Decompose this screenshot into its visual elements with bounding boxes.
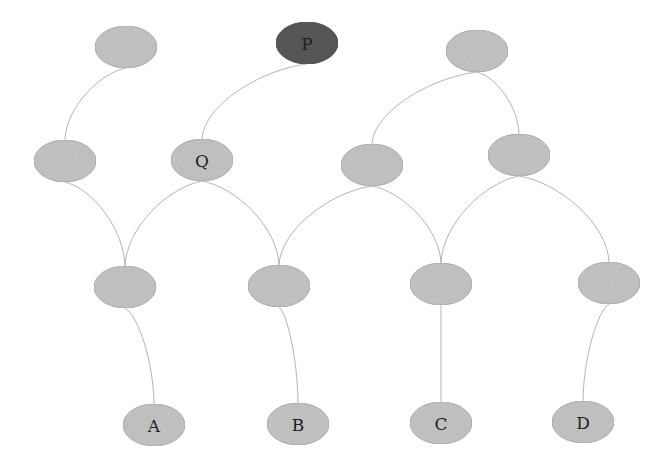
node-label: C xyxy=(434,414,447,434)
node-label: A xyxy=(147,416,161,436)
edge-n7-n11 xyxy=(519,176,609,262)
node-ellipse xyxy=(94,266,156,308)
edge-n3-n6 xyxy=(372,72,477,144)
node-ellipse xyxy=(95,26,157,68)
node-ellipse xyxy=(488,134,550,176)
graph-node-A[interactable]: A xyxy=(123,404,185,446)
node-label: D xyxy=(576,413,590,433)
node-ellipse xyxy=(578,262,640,304)
edge-n4-n8 xyxy=(65,182,125,266)
node-label: B xyxy=(292,415,305,435)
graph-node-n1[interactable] xyxy=(95,26,157,68)
graph-node-n8[interactable] xyxy=(94,266,156,308)
edge-layer xyxy=(65,64,609,404)
graph-node-Q[interactable]: Q xyxy=(171,139,233,181)
node-ellipse xyxy=(34,140,96,182)
graph-node-D[interactable]: D xyxy=(552,401,614,443)
graph-node-C[interactable]: C xyxy=(410,402,472,444)
graph-node-n9[interactable] xyxy=(248,265,310,307)
edge-Q-n8 xyxy=(125,181,202,266)
edge-n11-D xyxy=(583,304,609,401)
graph-node-P[interactable]: P xyxy=(276,22,338,64)
edge-P-Q xyxy=(202,64,307,139)
node-layer: PQABCD xyxy=(34,22,640,446)
graph-node-n4[interactable] xyxy=(34,140,96,182)
node-ellipse xyxy=(248,265,310,307)
graph-node-B[interactable]: B xyxy=(267,403,329,445)
edge-Q-n9 xyxy=(202,181,279,265)
graph-node-n6[interactable] xyxy=(341,144,403,186)
node-ellipse xyxy=(446,30,508,72)
graph-diagram: PQABCD xyxy=(0,0,665,468)
graph-node-n3[interactable] xyxy=(446,30,508,72)
node-label: P xyxy=(301,34,312,54)
graph-node-n11[interactable] xyxy=(578,262,640,304)
edge-n1-n4 xyxy=(65,68,126,140)
graph-node-n7[interactable] xyxy=(488,134,550,176)
node-ellipse xyxy=(341,144,403,186)
edge-n7-n10 xyxy=(441,176,519,263)
edge-n6-n9 xyxy=(279,186,372,265)
graph-node-n10[interactable] xyxy=(410,263,472,305)
node-ellipse xyxy=(410,263,472,305)
edge-n6-n10 xyxy=(372,186,441,263)
edge-n9-B xyxy=(279,307,298,403)
edge-n8-A xyxy=(125,308,154,404)
edge-n3-n7 xyxy=(477,72,519,134)
node-label: Q xyxy=(195,151,209,171)
